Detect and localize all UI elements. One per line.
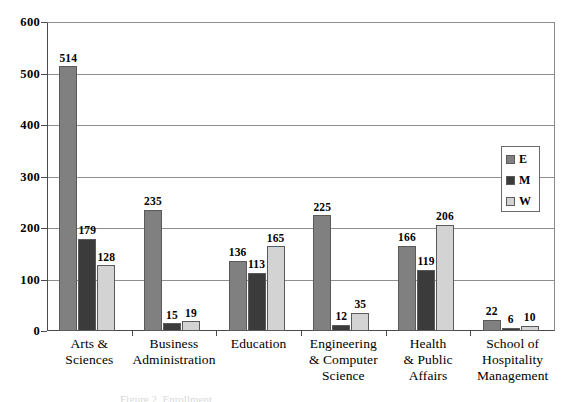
bar-m [248,273,266,331]
legend-label: E [519,153,527,165]
bar-group: 2351519 [132,22,217,331]
category-label-line: Administration [120,352,229,368]
bar-value-label: 179 [72,225,102,237]
bar-e [59,66,77,331]
legend-swatch-icon [506,197,515,206]
legend-item-w[interactable]: W [506,195,531,207]
figure-caption: Figure 2. Enrollment [120,393,420,402]
bar-value-label: 128 [91,252,121,264]
bar-group: 2251235 [301,22,386,331]
y-axis-tick-label: 200 [0,222,40,235]
bar-value-label: 235 [138,196,168,208]
y-axis-tick-label: 500 [0,68,40,81]
bar-value-label: 166 [392,232,422,244]
bar-e [229,261,247,331]
bar-group: 136113165 [216,22,301,331]
bar-m [502,328,520,331]
y-axis-tick-label: 400 [0,119,40,132]
bar-m [417,270,435,331]
legend-swatch-icon [506,155,515,164]
y-axis-tick-label: 300 [0,171,40,184]
bar-w [267,246,285,331]
bar-m [163,323,181,331]
legend-item-m[interactable]: M [506,174,530,186]
bar-m [332,325,350,331]
bar-chart: 0100200300400500600 51417912823515191361… [0,0,572,402]
bar-groups: 5141791282351519136113165225123516611920… [47,22,555,331]
y-axis-tick-label: 100 [0,274,40,287]
legend-label: M [519,174,530,186]
bar-value-label: 206 [430,211,460,223]
bar-value-label: 225 [307,202,337,214]
category-label-line: School of [458,336,567,352]
bar-w [521,326,539,331]
bar-group: 514179128 [47,22,132,331]
bar-w [182,321,200,331]
category-label-line: Management [458,368,567,384]
bar-value-label: 136 [223,247,253,259]
x-axis-category-labels: Arts &SciencesBusinessAdministrationEduc… [47,336,555,392]
bar-w [351,313,369,331]
legend-label: W [519,195,531,207]
legend-swatch-icon [506,176,515,185]
legend: EMW [501,146,540,212]
y-axis-tick-mark [41,331,47,332]
bar-value-label: 10 [515,312,545,324]
bar-value-label: 165 [261,233,291,245]
y-axis-tick-label: 600 [0,16,40,29]
bar-w [436,225,454,331]
y-axis-tick-label: 0 [0,325,40,338]
category-label-line: Hospitality [458,352,567,368]
bar-value-label: 35 [345,299,375,311]
x-axis-category-label: School ofHospitalityManagement [458,336,567,384]
bar-group: 166119206 [386,22,471,331]
bar-w [97,265,115,331]
bar-value-label: 19 [176,308,206,320]
bar-value-label: 514 [53,53,83,65]
legend-item-e[interactable]: E [506,153,527,165]
